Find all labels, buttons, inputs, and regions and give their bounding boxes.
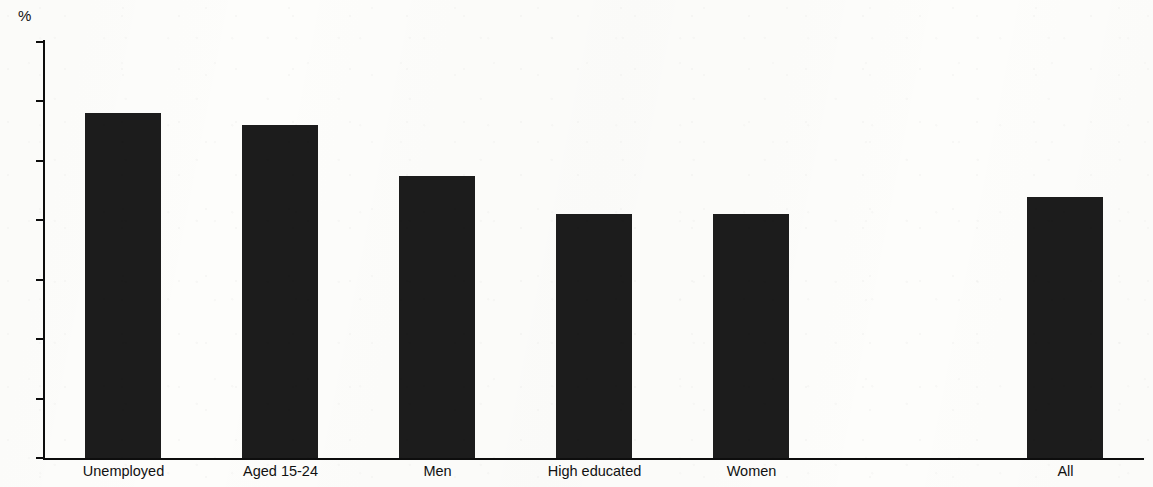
y-axis-tick-mark — [36, 457, 43, 459]
x-axis-category-label: Women — [727, 464, 777, 480]
y-axis-tick-mark — [36, 398, 43, 400]
x-axis-category-label: Men — [423, 464, 451, 480]
x-axis-category-label: High educated — [548, 464, 642, 480]
plot-area — [44, 42, 1144, 458]
bar — [713, 214, 789, 458]
y-axis-tick-mark — [36, 160, 43, 162]
y-axis-tick-mark — [36, 219, 43, 221]
bar — [556, 214, 632, 458]
y-axis-tick-mark — [36, 100, 43, 102]
bar-chart: % 010203040506070 UnemployedAged 15-24Me… — [0, 0, 1153, 487]
y-axis-tick-mark — [36, 279, 43, 281]
x-axis-category-label: Unemployed — [83, 464, 164, 480]
y-axis-tick-mark — [36, 41, 43, 43]
y-axis-unit-label: % — [18, 8, 32, 23]
y-axis-tick-mark — [36, 338, 43, 340]
bar — [1027, 197, 1103, 458]
x-axis-category-label: Aged 15-24 — [243, 464, 318, 480]
bar — [399, 176, 475, 458]
x-axis-category-label: All — [1057, 464, 1073, 480]
bar — [85, 113, 161, 458]
x-axis-baseline — [43, 458, 1144, 460]
bar — [242, 125, 318, 458]
